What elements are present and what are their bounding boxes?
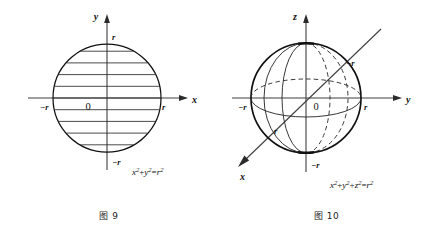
tick-y-positive: r bbox=[112, 32, 116, 42]
svg-text:x2+y2+z2=r2: x2+y2+z2=r2 bbox=[329, 179, 374, 191]
tick-z-negative: −r bbox=[311, 160, 320, 170]
y-axis-label: y bbox=[405, 94, 411, 105]
figure-10-caption: 图 10 bbox=[218, 209, 435, 222]
y-axis bbox=[104, 14, 110, 170]
north-pole-marker bbox=[298, 43, 314, 44]
x-axis-arrow-icon bbox=[179, 95, 188, 101]
tick-y-negative: −r bbox=[238, 102, 247, 112]
south-pole-marker bbox=[298, 152, 314, 153]
equation-circle: x2+y2=r2 bbox=[131, 166, 164, 178]
y-axis-arrow-icon bbox=[393, 95, 402, 101]
x-axis-label: x bbox=[191, 94, 197, 105]
z-axis bbox=[303, 14, 309, 172]
figure-10: z y x −r r −r r −r 0 x2+y2+z2=r2 图 10 bbox=[218, 0, 435, 228]
x-axis-label: x bbox=[239, 171, 245, 182]
figure-sheet: y x r −r −r r 0 x2+y2=r2 图 9 bbox=[0, 0, 435, 228]
tick-x-negative: −r bbox=[346, 58, 355, 68]
tick-x-negative: −r bbox=[40, 102, 49, 112]
figure-10-drawing: z y x −r r −r r −r 0 x2+y2+z2=r2 bbox=[218, 0, 435, 200]
origin-label: 0 bbox=[313, 101, 318, 112]
tick-x-positive: r bbox=[274, 126, 278, 136]
origin-label: 0 bbox=[85, 101, 90, 112]
equation-sphere: x2+y2+z2=r2 bbox=[329, 179, 374, 191]
svg-text:x2+y2=r2: x2+y2=r2 bbox=[131, 166, 164, 178]
z-axis-label: z bbox=[292, 11, 297, 22]
eq-exp-r: 2 bbox=[370, 179, 374, 186]
tick-y-positive: r bbox=[364, 102, 368, 112]
eq-exp-r: 2 bbox=[160, 166, 164, 173]
figure-9-drawing: y x r −r −r r 0 x2+y2=r2 bbox=[0, 0, 218, 200]
figure-9-caption: 图 9 bbox=[0, 209, 218, 222]
tick-y-negative: −r bbox=[112, 157, 121, 167]
y-axis-label: y bbox=[93, 11, 99, 22]
y-axis-arrow-icon bbox=[104, 14, 110, 23]
figure-9: y x r −r −r r 0 x2+y2=r2 图 9 bbox=[0, 0, 218, 228]
z-axis-arrow-icon bbox=[303, 14, 309, 23]
tick-x-positive: r bbox=[162, 102, 166, 112]
